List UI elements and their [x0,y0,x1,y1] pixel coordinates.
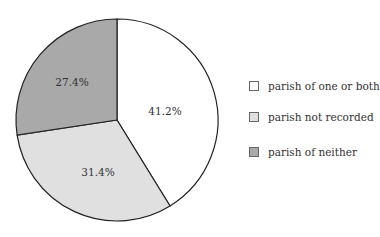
legend-label: parish of one or both [268,80,380,92]
slice-value-label: 41.2% [148,105,181,117]
legend-label: parish not recorded [268,111,374,123]
legend-item-parish-of-neither: parish of neither [249,145,357,159]
legend-swatch [249,81,259,91]
legend-swatch [249,147,259,157]
pie-slices [16,19,218,221]
legend-swatch [249,112,259,122]
legend-label: parish of neither [268,146,357,158]
legend-item-parish-not-recorded: parish not recorded [249,110,374,124]
slice-value-label: 31.4% [81,166,114,178]
slice-value-label: 27.4% [55,76,88,88]
legend-item-parish-of-one-or-both: parish of one or both [249,79,380,93]
